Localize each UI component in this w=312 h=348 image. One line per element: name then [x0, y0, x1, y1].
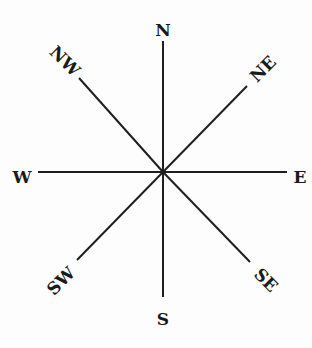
- direction-label-s: S: [157, 309, 169, 329]
- direction-line-se: [163, 172, 250, 262]
- compass-rose: NNEESESSWWNW: [0, 0, 312, 348]
- direction-line-ne: [163, 86, 247, 172]
- direction-label-e: E: [294, 167, 307, 187]
- direction-label-se: SE: [250, 264, 282, 296]
- direction-label-w: W: [11, 167, 32, 187]
- direction-line-nw: [79, 78, 163, 172]
- direction-label-n: N: [155, 20, 171, 40]
- direction-label-ne: NE: [246, 52, 280, 86]
- direction-line-sw: [77, 172, 163, 260]
- direction-label-sw: SW: [43, 262, 80, 299]
- compass-rose-diagram: NNEESESSWWNW: [0, 0, 312, 348]
- direction-label-nw: NW: [46, 42, 85, 81]
